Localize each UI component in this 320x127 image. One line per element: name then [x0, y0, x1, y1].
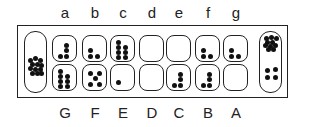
- seed: [273, 67, 278, 72]
- right-store[interactable]: [259, 31, 282, 93]
- pit-f[interactable]: [195, 35, 220, 62]
- seed: [116, 80, 121, 85]
- seed: [65, 84, 70, 89]
- label-f: f: [198, 4, 218, 21]
- pit-b[interactable]: [82, 35, 107, 62]
- pit-D[interactable]: [139, 64, 164, 91]
- seed: [274, 36, 279, 41]
- pit-c[interactable]: [110, 35, 135, 62]
- pit-d[interactable]: [139, 35, 164, 62]
- seed: [207, 77, 212, 82]
- seed: [236, 54, 241, 59]
- pit-A[interactable]: [223, 64, 248, 91]
- seed: [88, 82, 93, 87]
- seed: [64, 54, 69, 59]
- seed: [97, 71, 102, 76]
- seed: [201, 54, 206, 59]
- pit-B[interactable]: [195, 64, 220, 91]
- pit-F[interactable]: [82, 64, 107, 91]
- seed: [273, 75, 278, 80]
- pit-g[interactable]: [223, 35, 248, 62]
- label-e: e: [169, 4, 189, 21]
- label-E: E: [113, 104, 133, 121]
- label-A: A: [226, 104, 246, 121]
- pit-e[interactable]: [166, 35, 191, 62]
- seed: [58, 84, 63, 89]
- seed: [39, 71, 44, 76]
- pit-a[interactable]: [52, 35, 77, 62]
- label-D: D: [142, 104, 162, 121]
- seed: [123, 55, 128, 60]
- label-g: g: [226, 4, 246, 21]
- seed: [201, 48, 206, 53]
- label-a: a: [55, 4, 75, 21]
- seed: [116, 55, 121, 60]
- seed: [265, 75, 270, 80]
- label-b: b: [85, 4, 105, 21]
- seed: [95, 54, 100, 59]
- seed: [88, 71, 93, 76]
- left-store[interactable]: [24, 31, 47, 93]
- pit-G[interactable]: [52, 64, 77, 91]
- seed: [58, 54, 63, 59]
- seed: [97, 82, 102, 87]
- seed: [229, 48, 234, 53]
- seed: [229, 54, 234, 59]
- seed: [88, 48, 93, 53]
- seed: [178, 83, 183, 88]
- label-G: G: [55, 104, 75, 121]
- label-C: C: [169, 104, 189, 121]
- seed: [88, 54, 93, 59]
- label-c: c: [113, 4, 133, 21]
- seed: [64, 48, 69, 53]
- label-B: B: [198, 104, 218, 121]
- pit-E[interactable]: [110, 64, 135, 91]
- label-F: F: [85, 104, 105, 121]
- seed: [172, 83, 177, 88]
- seed: [271, 47, 276, 52]
- seed: [178, 77, 183, 82]
- seed: [265, 68, 270, 73]
- seed: [207, 83, 212, 88]
- seed: [208, 54, 213, 59]
- label-d: d: [142, 4, 162, 21]
- pit-C[interactable]: [166, 64, 191, 91]
- seed: [93, 76, 98, 81]
- seed: [201, 83, 206, 88]
